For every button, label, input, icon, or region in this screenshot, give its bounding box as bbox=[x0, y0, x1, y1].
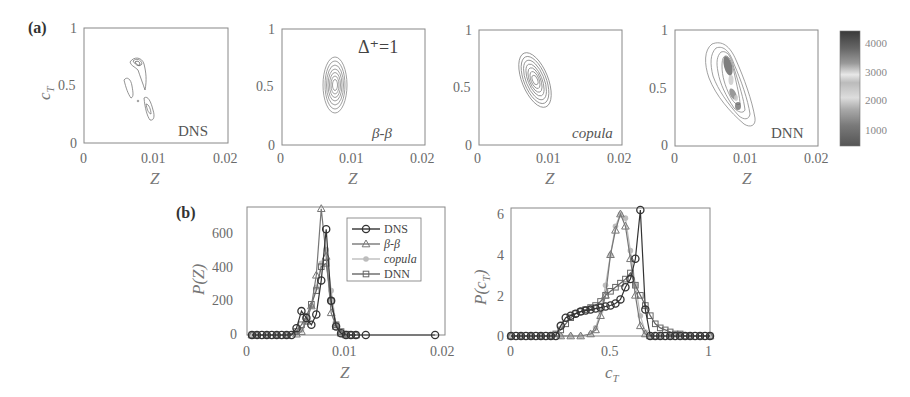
xtick: 0.01 bbox=[733, 151, 758, 166]
ytick: 0 bbox=[465, 138, 472, 153]
series-dnn bbox=[508, 270, 713, 339]
x-axis-label: Z bbox=[348, 169, 358, 188]
xtick: 0 bbox=[474, 151, 481, 166]
ytick: 6 bbox=[497, 207, 504, 222]
panel-a-label: (a) bbox=[28, 19, 47, 37]
legend-label: DNN bbox=[384, 267, 410, 281]
xtick: 0 bbox=[243, 344, 250, 359]
colorbar: 4000 3000 2000 1000 bbox=[840, 31, 888, 146]
colorbar-tick: 3000 bbox=[865, 66, 888, 78]
x-axis-label: Z bbox=[340, 363, 350, 382]
ytick: 0.5 bbox=[58, 78, 76, 93]
ytick: 2 bbox=[497, 289, 504, 304]
data-marker bbox=[363, 256, 369, 262]
ytick: 200 bbox=[212, 293, 233, 308]
y-axis-label: P(cT) bbox=[471, 269, 492, 306]
ytick: 1 bbox=[661, 23, 668, 38]
ytick: 0.5 bbox=[649, 81, 667, 96]
method-tag: DNS bbox=[178, 123, 208, 139]
y-axis-label: cT bbox=[35, 85, 56, 100]
ytick: 4 bbox=[497, 248, 504, 263]
contour-plot-beta-beta: 1 0.5 0 0 0.01 0.02 Z Δ⁺=1 β-β bbox=[256, 22, 435, 188]
figure-canvas: (a) (b) 1 0.5 0 0 0.01 0.02 Z cT DNS 1 0… bbox=[0, 0, 910, 397]
legend-label: DNS bbox=[384, 222, 408, 236]
ytick: 0 bbox=[268, 138, 275, 153]
legend-label: β-β bbox=[383, 237, 400, 251]
contour-plot-dns: 1 0.5 0 0 0.01 0.02 Z cT DNS bbox=[35, 21, 238, 188]
x-axis-label: Z bbox=[742, 169, 752, 188]
panel-b-label: (b) bbox=[176, 204, 196, 222]
ytick: 0 bbox=[230, 327, 237, 342]
xtick: 0.02 bbox=[804, 151, 829, 166]
xtick: 0 bbox=[507, 344, 514, 359]
method-tag: DNN bbox=[771, 125, 804, 141]
ytick: 1 bbox=[268, 22, 275, 37]
ytick: 0 bbox=[661, 138, 668, 153]
xtick: 0 bbox=[671, 151, 678, 166]
xtick: 0.02 bbox=[213, 151, 238, 166]
xtick: 0.02 bbox=[607, 151, 632, 166]
ytick: 0 bbox=[70, 136, 77, 151]
xtick: 0.02 bbox=[430, 344, 455, 359]
colorbar-tick: 2000 bbox=[865, 94, 888, 106]
ytick: 0 bbox=[497, 329, 504, 344]
xtick: 0.02 bbox=[410, 151, 435, 166]
xtick: 0.01 bbox=[332, 344, 357, 359]
xtick: 0 bbox=[80, 151, 87, 166]
method-tag: β-β bbox=[371, 125, 392, 141]
y-axis-label: P(Z) bbox=[189, 264, 208, 297]
pdf-plot-z: 600 400 200 0 0 0.01 0.02 Z P(Z) DNSβ-βc… bbox=[189, 205, 455, 382]
ytick: 1 bbox=[465, 23, 472, 38]
contour-plot-dnn: 1 0.5 0 0 0.01 0.02 Z DNN bbox=[649, 23, 829, 188]
method-tag: copula bbox=[572, 125, 613, 141]
ytick: 400 bbox=[212, 260, 233, 275]
series- bbox=[507, 210, 714, 339]
x-axis-label: Z bbox=[150, 169, 160, 188]
xtick: 1 bbox=[705, 344, 712, 359]
x-axis-label: Z bbox=[545, 169, 555, 188]
ytick: 0.5 bbox=[256, 79, 274, 94]
colorbar-tick: 4000 bbox=[865, 37, 888, 49]
ytick: 600 bbox=[212, 226, 233, 241]
legend-label: copula bbox=[384, 252, 417, 266]
xtick: 0.01 bbox=[141, 151, 166, 166]
ytick: 0.5 bbox=[453, 80, 471, 95]
ytick: 1 bbox=[70, 21, 77, 36]
xtick: 0.5 bbox=[601, 344, 619, 359]
xtick: 0.01 bbox=[536, 151, 561, 166]
xtick: 0 bbox=[277, 151, 284, 166]
contour-plot-copula: 1 0.5 0 0 0.01 0.02 Z copula bbox=[453, 23, 632, 188]
series-dns bbox=[507, 206, 713, 339]
xtick: 0.01 bbox=[339, 151, 364, 166]
pct-series bbox=[507, 206, 714, 339]
x-axis-label: cT bbox=[605, 363, 620, 384]
legend: DNSβ-βcopulaDNN bbox=[347, 218, 421, 281]
series-copula bbox=[508, 211, 713, 339]
delta-plus-label: Δ⁺=1 bbox=[358, 37, 398, 57]
colorbar-tick: 1000 bbox=[865, 124, 888, 136]
pdf-plot-ct: 6 4 2 0 0 0.5 1 cT P(cT) bbox=[471, 206, 714, 384]
